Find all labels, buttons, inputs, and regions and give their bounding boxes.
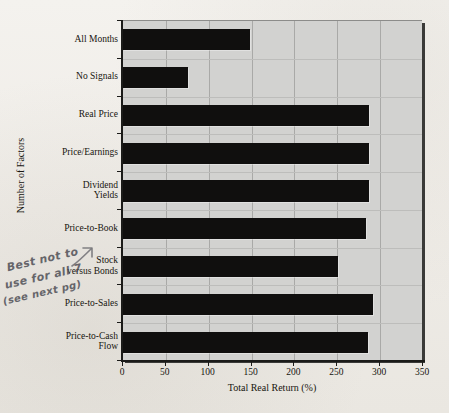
bar bbox=[123, 143, 369, 164]
gridline-horizontal bbox=[123, 59, 422, 60]
x-axis-tick bbox=[379, 362, 380, 366]
bar bbox=[123, 256, 338, 277]
x-axis-tick-label: 350 bbox=[407, 367, 437, 377]
y-axis-category-label: No Signals bbox=[8, 71, 118, 82]
y-axis-category-label: Price-to-CashFlow bbox=[8, 331, 118, 352]
bar-chart-figure: All MonthsNo SignalsReal PricePrice/Earn… bbox=[0, 0, 449, 413]
x-axis-tick-label: 250 bbox=[321, 367, 351, 377]
bar bbox=[123, 105, 369, 126]
category-label-line: Price-to-Cash bbox=[8, 331, 118, 342]
x-axis-tick bbox=[336, 362, 337, 366]
gridline-horizontal bbox=[123, 248, 422, 249]
category-label-line: Flow bbox=[8, 341, 118, 352]
gridline-horizontal bbox=[123, 323, 422, 324]
bar bbox=[123, 180, 369, 201]
bar bbox=[123, 294, 373, 315]
bar bbox=[123, 29, 250, 50]
x-axis-tick bbox=[293, 362, 294, 366]
bar bbox=[123, 332, 368, 353]
x-axis-tick-label: 0 bbox=[107, 367, 137, 377]
x-axis-tick-label: 200 bbox=[278, 367, 308, 377]
x-axis-tick bbox=[165, 362, 166, 366]
gridline-horizontal bbox=[123, 285, 422, 286]
y-axis-title: Number of Factors bbox=[15, 111, 26, 241]
bar bbox=[123, 218, 366, 239]
category-label-line: All Months bbox=[8, 34, 118, 45]
x-axis-tick-label: 300 bbox=[364, 367, 394, 377]
x-axis-tick bbox=[422, 362, 423, 366]
x-axis-title: Total Real Return (%) bbox=[122, 382, 422, 393]
x-axis-tick bbox=[251, 362, 252, 366]
x-axis-tick-label: 50 bbox=[150, 367, 180, 377]
plot-area bbox=[122, 20, 422, 360]
category-label-line: No Signals bbox=[8, 71, 118, 82]
y-axis-category-label: All Months bbox=[8, 34, 118, 45]
gridline-horizontal bbox=[123, 134, 422, 135]
x-axis-tick-label: 150 bbox=[236, 367, 266, 377]
gridline-horizontal bbox=[123, 210, 422, 211]
gridline-vertical bbox=[380, 21, 381, 360]
gridline-horizontal bbox=[123, 97, 422, 98]
bar bbox=[123, 67, 188, 88]
gridline-horizontal bbox=[123, 172, 422, 173]
y-axis-line bbox=[121, 20, 123, 361]
x-axis-tick bbox=[122, 362, 123, 366]
x-axis-tick bbox=[208, 362, 209, 366]
x-axis-tick-label: 100 bbox=[193, 367, 223, 377]
